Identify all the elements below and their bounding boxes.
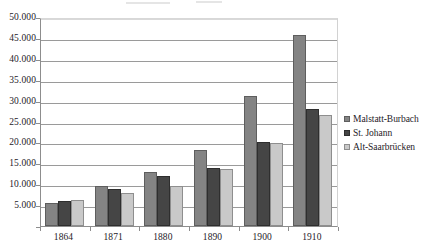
bar-group bbox=[293, 19, 332, 226]
bar bbox=[157, 176, 170, 226]
bar bbox=[58, 201, 71, 226]
y-axis-label: 20.000 bbox=[0, 137, 36, 147]
bar bbox=[270, 143, 283, 226]
scan-artifact-icon bbox=[126, 2, 170, 4]
bar bbox=[45, 203, 58, 226]
y-axis-label: 25.000 bbox=[0, 117, 36, 127]
y-axis-label: 45.000 bbox=[0, 33, 36, 43]
legend-item: St. Johann bbox=[344, 126, 430, 140]
bar-group bbox=[244, 19, 283, 226]
y-axis-label: 15.000 bbox=[0, 158, 36, 168]
bar bbox=[194, 150, 207, 226]
x-axis-tick bbox=[288, 227, 289, 231]
scan-artifact-icon bbox=[196, 1, 222, 3]
bar bbox=[121, 193, 134, 226]
y-axis-label: 5.000 bbox=[0, 200, 36, 210]
bar bbox=[108, 189, 121, 226]
bar-group bbox=[45, 19, 84, 226]
bar bbox=[220, 169, 233, 226]
x-axis-label: 1871 bbox=[86, 232, 140, 242]
y-axis-label: 40.000 bbox=[0, 54, 36, 64]
legend-label: St. Johann bbox=[353, 128, 392, 138]
legend-label: Alt-Saarbrücken bbox=[353, 142, 415, 152]
x-axis-label: 1864 bbox=[37, 232, 91, 242]
x-axis-label: 1900 bbox=[235, 232, 289, 242]
legend-label: Malstatt-Burbach bbox=[353, 114, 419, 124]
y-axis-label: 30.000 bbox=[0, 96, 36, 106]
legend-item: Alt-Saarbrücken bbox=[344, 140, 430, 154]
legend-swatch-icon bbox=[344, 130, 350, 136]
chart-legend: Malstatt-BurbachSt. JohannAlt-Saarbrücke… bbox=[344, 112, 430, 154]
y-axis-label: 10.000 bbox=[0, 179, 36, 189]
x-axis-label: 1890 bbox=[186, 232, 240, 242]
x-axis-tick bbox=[239, 227, 240, 231]
x-axis-tick bbox=[189, 227, 190, 231]
bar-group bbox=[95, 19, 134, 226]
y-axis-label: 50.000 bbox=[0, 12, 36, 22]
bar bbox=[293, 35, 306, 226]
bar-group bbox=[194, 19, 233, 226]
bar bbox=[207, 168, 220, 226]
bar bbox=[257, 142, 270, 226]
x-axis-label: 1910 bbox=[285, 232, 339, 242]
legend-swatch-icon bbox=[344, 116, 350, 122]
y-axis-label: 35.000 bbox=[0, 75, 36, 85]
bar bbox=[319, 115, 332, 226]
bar bbox=[170, 186, 183, 226]
legend-item: Malstatt-Burbach bbox=[344, 112, 430, 126]
bar bbox=[95, 186, 108, 226]
x-axis-tick bbox=[338, 227, 339, 231]
bar bbox=[144, 172, 157, 226]
plot-area bbox=[40, 18, 338, 227]
bar-group bbox=[144, 19, 183, 226]
x-axis-label: 1880 bbox=[136, 232, 190, 242]
bar bbox=[71, 200, 84, 226]
x-axis-tick bbox=[40, 227, 41, 231]
bar bbox=[306, 109, 319, 226]
bar bbox=[244, 96, 257, 226]
bar-chart-figure: 5.00010.00015.00020.00025.00030.00035.00… bbox=[0, 0, 430, 251]
x-axis-tick bbox=[139, 227, 140, 231]
legend-swatch-icon bbox=[344, 144, 350, 150]
x-axis-tick bbox=[90, 227, 91, 231]
